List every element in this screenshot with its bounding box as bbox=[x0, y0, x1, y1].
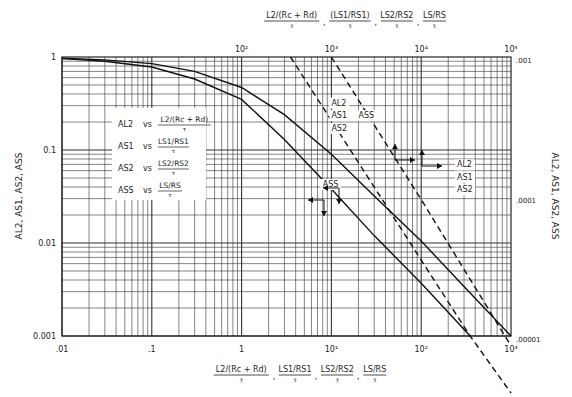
legend-numerator: LS2/RS2 bbox=[158, 159, 189, 168]
x2-label-separator: , bbox=[374, 18, 377, 27]
x2-label-separator: , bbox=[323, 18, 326, 27]
x-label-denominator: τ bbox=[293, 376, 297, 383]
x2-tick-label: 10⁵ bbox=[504, 45, 517, 54]
legend-vs: vs bbox=[143, 142, 152, 151]
curve-annotation: AL2 bbox=[457, 160, 472, 169]
curve-annotation: AS1 bbox=[457, 173, 473, 182]
tick-labels: .01.1110¹10²10³10²10³10⁴10⁵10.10.010.001… bbox=[33, 45, 540, 354]
annotations: AL2AS1AS2ASSASSAL2AS1AS2 bbox=[321, 98, 475, 196]
curve-annotation: ASS bbox=[358, 111, 374, 120]
x2-tick-label: 10⁴ bbox=[415, 45, 428, 54]
legend-entry-name: AS1 bbox=[118, 142, 134, 151]
arrowhead-left-icon bbox=[308, 197, 313, 203]
x2-tick-label: 10³ bbox=[325, 45, 338, 54]
arrowhead-down-icon bbox=[336, 199, 342, 204]
x-label-numerator: LS/RS bbox=[363, 365, 386, 374]
x2-axis-label: L2/(Rc + Rd)τ,(LS1/RS1)τ,LS2/RS2τ,LS/RSτ bbox=[264, 11, 446, 29]
legend: AL2vsL2/(Rc + Rd)τAS1vsLS1/RS1τAS2vsLS2/… bbox=[112, 108, 211, 200]
y2-tick-label: .001 bbox=[516, 57, 532, 65]
y2-tick-label: .00001 bbox=[516, 336, 541, 344]
x2-label-numerator: L2/(Rc + Rd) bbox=[266, 11, 317, 20]
x-label-separator: , bbox=[273, 372, 276, 381]
curve-annotation: AS2 bbox=[331, 124, 347, 133]
x2-tick-label: 10² bbox=[235, 45, 248, 54]
x-tick-label: .1 bbox=[148, 345, 156, 354]
legend-entry-name: AS2 bbox=[118, 164, 134, 173]
y-tick-label: 0.1 bbox=[43, 146, 56, 155]
x-tick-label: .01 bbox=[56, 345, 69, 354]
x-label-denominator: τ bbox=[239, 376, 243, 383]
curve-annotation: AS2 bbox=[457, 185, 473, 194]
x-label-denominator: τ bbox=[373, 376, 377, 383]
legend-numerator: LS1/RS1 bbox=[158, 137, 189, 146]
legend-entry-name: AL2 bbox=[118, 120, 133, 129]
x-label-separator: , bbox=[357, 372, 360, 381]
arrowhead-up-icon bbox=[392, 144, 398, 149]
x-label-numerator: L2/(Rc + Rd) bbox=[216, 365, 267, 374]
x-tick-label: 10² bbox=[415, 345, 428, 354]
y-tick-label: 0.01 bbox=[38, 239, 56, 248]
legend-vs: vs bbox=[143, 164, 152, 173]
arrowhead-up-icon bbox=[419, 150, 425, 155]
x2-label-numerator: LS/RS bbox=[423, 11, 446, 20]
legend-vs: vs bbox=[143, 120, 152, 129]
x-tick-label: 10¹ bbox=[325, 345, 338, 354]
y2-axis-label: AL2, AS1, AS2, ASS bbox=[550, 153, 560, 240]
y-axis-label: AL2, AS1, AS2, ASS bbox=[14, 152, 24, 239]
x2-label-numerator: (LS1/RS1) bbox=[330, 11, 369, 20]
x-label-denominator: τ bbox=[335, 376, 339, 383]
x2-label-numerator: LS2/RS2 bbox=[380, 11, 413, 20]
legend-numerator: LS/RS bbox=[159, 181, 181, 190]
legend-entry-name: ASS bbox=[118, 186, 134, 195]
x-label-numerator: LS1/RS1 bbox=[278, 365, 311, 374]
legend-numerator: L2/(Rc + Rd) bbox=[161, 115, 209, 124]
x-tick-label: 1 bbox=[239, 345, 244, 354]
x2-label-separator: , bbox=[417, 18, 420, 27]
x2-label-denominator: τ bbox=[348, 22, 352, 29]
x2-label-denominator: τ bbox=[433, 22, 437, 29]
y-tick-label: 0.001 bbox=[33, 332, 56, 341]
series-line-4 bbox=[291, 57, 512, 393]
curve-annotation: AS1 bbox=[331, 111, 347, 120]
y2-tick-label: .0001 bbox=[516, 197, 536, 205]
x-label-separator: , bbox=[315, 372, 318, 381]
x-axis-label: L2/(Rc + Rd)τ,LS1/RS1τ,LS2/RS2τ,LS/RSτ bbox=[214, 365, 387, 383]
x2-label-denominator: τ bbox=[395, 22, 399, 29]
curve-annotation: AL2 bbox=[331, 99, 346, 108]
chart: AL2vsL2/(Rc + Rd)τAS1vsLS1/RS1τAS2vsLS2/… bbox=[0, 0, 572, 397]
arrowhead-right-icon bbox=[437, 163, 442, 169]
series-group bbox=[62, 57, 511, 393]
x2-label-denominator: τ bbox=[290, 22, 294, 29]
legend-vs: vs bbox=[143, 186, 152, 195]
y-tick-label: 1 bbox=[51, 53, 56, 62]
x-tick-label: 10³ bbox=[504, 345, 517, 354]
x-label-numerator: LS2/RS2 bbox=[321, 365, 354, 374]
